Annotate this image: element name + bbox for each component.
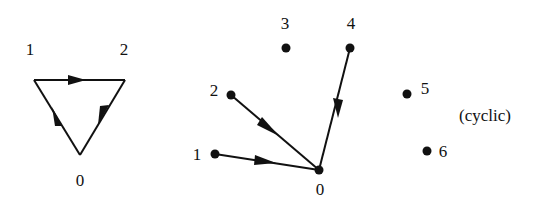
cyclic-annotation: (cyclic) [459, 106, 511, 125]
left-node-label-0: 0 [76, 171, 85, 190]
left-node-label-2: 2 [120, 40, 129, 59]
right-node-label-3: 3 [281, 14, 290, 33]
node-dot-5 [403, 90, 412, 99]
left-graph: 1 2 0 [26, 40, 129, 190]
left-node-label-1: 1 [26, 40, 35, 59]
right-node-label-1: 1 [193, 145, 202, 164]
right-node-label-4: 4 [347, 14, 356, 33]
right-node-label-2: 2 [210, 81, 219, 100]
arrowhead-2-0 [257, 117, 279, 136]
edge-2-0 [80, 80, 125, 155]
node-dot-3 [282, 44, 291, 53]
diagram-canvas: 1 2 0 0 1 2 3 4 5 6 (cyclic) [0, 0, 552, 206]
node-dot-0 [315, 166, 324, 175]
arrowhead-0-1 [52, 107, 62, 126]
node-dot-2 [227, 91, 236, 100]
right-node-label-0: 0 [316, 180, 325, 199]
right-node-label-5: 5 [421, 79, 430, 98]
right-graph: 0 1 2 3 4 5 6 (cyclic) [193, 14, 511, 199]
edge-4-0 [319, 48, 350, 170]
arrowhead-1-2 [68, 75, 86, 85]
node-dot-6 [423, 147, 432, 156]
right-node-label-6: 6 [439, 142, 448, 161]
node-dot-1 [211, 150, 220, 159]
node-dot-4 [346, 44, 355, 53]
